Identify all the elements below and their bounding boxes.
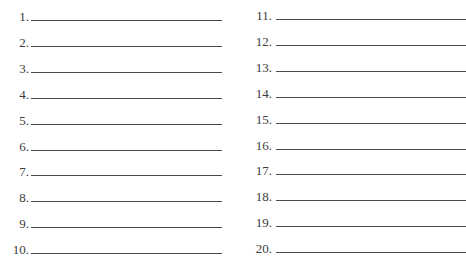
blank-answer-line[interactable] [31, 150, 222, 151]
line-number-label: 8. [0, 191, 29, 204]
numbered-line-row: 16. [229, 128, 459, 152]
blank-answer-line[interactable] [31, 20, 222, 21]
numbered-line-row: 1. [0, 0, 230, 23]
blank-answer-line[interactable] [276, 19, 466, 20]
line-number-label: 13. [229, 61, 272, 74]
line-number-label: 20. [229, 242, 272, 255]
blank-answer-line[interactable] [31, 124, 222, 125]
blank-answer-line[interactable] [31, 253, 222, 254]
line-number-label: 11. [229, 9, 272, 22]
numbered-line-row: 4. [0, 77, 230, 101]
numbered-line-row: 20. [229, 231, 459, 255]
line-number-label: 4. [0, 88, 29, 101]
blank-answer-line[interactable] [276, 226, 466, 227]
line-number-label: 17. [229, 164, 272, 177]
numbered-line-row: 12. [229, 24, 459, 48]
line-number-label: 7. [0, 165, 29, 178]
numbered-line-row: 15. [229, 102, 459, 126]
blank-answer-line[interactable] [276, 97, 466, 98]
line-number-label: 5. [0, 114, 29, 127]
line-number-label: 3. [0, 62, 29, 75]
numbered-line-row: 9. [0, 206, 230, 230]
numbered-line-row: 2. [0, 25, 230, 49]
numbered-line-row: 17. [229, 153, 459, 177]
numbered-line-row: 6. [0, 129, 230, 153]
blank-answer-line[interactable] [276, 174, 466, 175]
blank-answer-line[interactable] [276, 149, 466, 150]
line-number-label: 19. [229, 216, 272, 229]
blank-answer-line[interactable] [31, 98, 222, 99]
line-number-label: 2. [0, 36, 29, 49]
blank-answer-line[interactable] [276, 252, 466, 253]
line-number-label: 18. [229, 190, 272, 203]
blank-answer-line[interactable] [31, 46, 222, 47]
line-number-label: 6. [0, 140, 29, 153]
blank-answer-line[interactable] [276, 123, 466, 124]
numbered-line-row: 11. [229, 0, 459, 22]
numbered-line-row: 13. [229, 50, 459, 74]
line-number-label: 1. [0, 10, 29, 23]
numbered-line-row: 19. [229, 205, 459, 229]
blank-answer-line[interactable] [31, 72, 222, 73]
numbered-line-row: 3. [0, 51, 230, 75]
line-number-label: 12. [229, 35, 272, 48]
numbered-line-row: 7. [0, 154, 230, 178]
line-number-label: 14. [229, 87, 272, 100]
blank-answer-line[interactable] [31, 201, 222, 202]
line-number-label: 9. [0, 217, 29, 230]
line-number-label: 15. [229, 113, 272, 126]
blank-answer-line[interactable] [31, 227, 222, 228]
blank-answer-line[interactable] [31, 175, 222, 176]
numbered-line-row: 5. [0, 103, 230, 127]
blank-answer-line[interactable] [276, 200, 466, 201]
numbered-line-row: 8. [0, 180, 230, 204]
line-number-label: 10. [0, 243, 29, 256]
numbered-line-row: 18. [229, 179, 459, 203]
blank-answer-line[interactable] [276, 45, 466, 46]
blank-answer-line[interactable] [276, 71, 466, 72]
line-number-label: 16. [229, 139, 272, 152]
numbered-line-row: 10. [0, 232, 230, 256]
numbered-line-row: 14. [229, 76, 459, 100]
